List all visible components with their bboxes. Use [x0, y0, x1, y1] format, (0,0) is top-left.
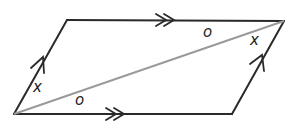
parallelogram-figure: [0, 0, 300, 135]
angle-label-x-top-right: x: [250, 33, 259, 48]
diagonal: [14, 21, 284, 114]
angle-label-o-bottom-left: o: [75, 93, 84, 108]
side-top: [67, 20, 284, 21]
angle-label-o-top-right: o: [203, 25, 212, 40]
angle-label-x-bottom-left: x: [33, 80, 42, 95]
side-left: [14, 20, 67, 114]
